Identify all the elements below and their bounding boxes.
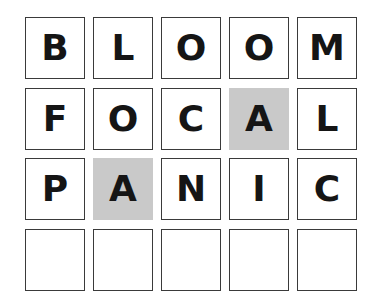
grid-cell: L [93,17,153,79]
grid-cell: M [297,17,357,79]
cell-letter: L [316,101,339,137]
cell-letter: O [176,30,207,66]
cell-letter: I [252,171,265,207]
cell-letter: M [309,30,345,66]
grid-cell: P [25,158,85,220]
grid-cell-empty [25,229,85,291]
grid-cell-empty [93,229,153,291]
cell-letter: F [43,101,68,137]
grid-cell: B [25,17,85,79]
grid-cell-empty [297,229,357,291]
grid-cell: C [161,88,221,150]
cell-letter: P [42,171,68,207]
grid-cell-present: A [93,158,153,220]
cell-letter: A [109,171,137,207]
grid-cell: L [297,88,357,150]
cell-letter: O [108,101,139,137]
grid-cell-empty [229,229,289,291]
cell-letter: O [244,30,275,66]
cell-letter: B [41,30,68,66]
grid-cell: O [229,17,289,79]
grid-cell: O [161,17,221,79]
grid-cell: N [161,158,221,220]
cell-letter: C [178,101,204,137]
cell-letter: N [176,171,206,207]
grid-cell-present: A [229,88,289,150]
grid-cell: I [229,158,289,220]
grid-cell-empty [161,229,221,291]
cell-letter: C [314,171,340,207]
grid-cell: F [25,88,85,150]
cell-letter: A [245,101,273,137]
grid-cell: C [297,158,357,220]
cell-letter: L [112,30,135,66]
grid-cell: O [93,88,153,150]
word-grid: B L O O M F O C A L P A N I C [25,17,357,291]
